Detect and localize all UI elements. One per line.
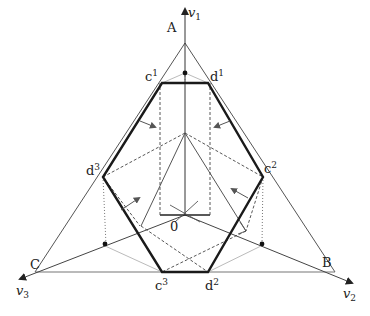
midpoint-dots	[103, 71, 265, 247]
label-A: A	[166, 20, 177, 35]
label-B: B	[322, 255, 332, 270]
label-c2: c2	[264, 160, 277, 176]
dashed-lines	[103, 83, 263, 272]
label-v1: v1	[188, 5, 201, 22]
labels: v1 v2 v3 A B C c1 d1 c2 d2 c3 d3 0	[16, 5, 356, 303]
label-v2: v2	[343, 286, 356, 303]
label-v3: v3	[16, 283, 29, 300]
label-C: C	[30, 257, 40, 272]
label-origin: 0	[170, 219, 178, 234]
label-d1: d1	[210, 68, 224, 84]
label-c1: c1	[145, 68, 158, 84]
simplex-diagram: v1 v2 v3 A B C c1 d1 c2 d2 c3 d3 0	[0, 0, 370, 316]
hexagon	[103, 83, 263, 272]
label-d2: d2	[205, 277, 219, 293]
label-c3: c3	[155, 277, 168, 293]
axes	[20, 9, 352, 283]
light-lines	[103, 73, 263, 272]
